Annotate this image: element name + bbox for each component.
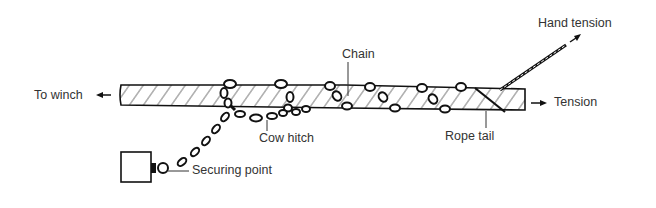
label-tension: Tension	[554, 96, 597, 109]
label-rope-tail: Rope tail	[445, 130, 494, 143]
leader-lines	[168, 62, 486, 171]
label-chain: Chain	[342, 48, 375, 61]
tension-arrow-icon	[531, 100, 547, 106]
label-to-winch: To winch	[34, 89, 83, 102]
label-securing-point: Securing point	[192, 164, 272, 177]
label-cow-hitch: Cow hitch	[259, 132, 314, 145]
label-hand-tension: Hand tension	[538, 17, 612, 30]
to-winch-arrow-icon	[96, 92, 111, 98]
securing-point-block	[121, 152, 156, 182]
